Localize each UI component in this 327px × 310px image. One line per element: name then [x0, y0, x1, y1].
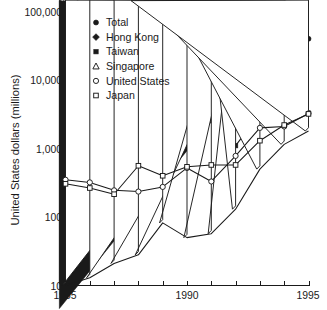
data-point-1989: [160, 173, 165, 178]
x-axis-tick-labels: 1985 1990 1995: [53, 290, 319, 301]
x-tick-label-1990: 1990: [175, 290, 198, 301]
data-point-1985: [63, 182, 68, 187]
legend-label: Japan: [106, 89, 135, 101]
data-point-1991: [209, 163, 214, 168]
data-point-1991: [209, 179, 214, 184]
series-singapore: [62, 0, 308, 285]
legend-label: Hong Kong: [106, 31, 159, 43]
y-axis-tick-labels: 100,000 10,000 1,000 100 10: [24, 7, 62, 292]
data-point-1988: [136, 189, 141, 194]
data-point-1992: [233, 163, 238, 168]
data-point-1986: [87, 180, 92, 185]
legend-label: Total: [106, 16, 128, 28]
legend-marker-filled-circle-icon: [94, 20, 99, 25]
data-point-1986: [88, 186, 93, 191]
data-point-1989: [160, 184, 165, 189]
y-tick-label-1000: 1,000: [36, 144, 62, 155]
series-layer: [59, 0, 311, 308]
chart-container: United States dollars (millions) 100,000…: [0, 0, 327, 310]
data-point-1993: [258, 138, 263, 143]
log-line-chart: United States dollars (millions) 100,000…: [0, 0, 327, 310]
y-tick-label-10000: 10,000: [30, 75, 62, 86]
data-point-1988: [136, 163, 141, 168]
legend-marker-open-circle-icon: [93, 78, 98, 83]
data-point-1987: [112, 192, 117, 197]
data-point-1992: [233, 153, 238, 158]
legend-marker-filled-square-icon: [94, 50, 98, 54]
legend-label: United States: [106, 75, 170, 87]
data-point-1993: [257, 125, 262, 130]
legend-label: Singapore: [106, 60, 154, 72]
legend-label: Taiwan: [106, 45, 139, 57]
data-point-1990: [185, 165, 190, 170]
y-tick-label-100000: 100,000: [24, 7, 62, 18]
x-tick-label-1995: 1995: [296, 290, 319, 301]
y-axis-title: United States dollars (millions): [9, 74, 21, 225]
data-point-1995: [306, 112, 311, 117]
x-axis-ticks: [67, 281, 310, 286]
legend-marker-open-square-icon: [94, 93, 99, 98]
data-point-1994: [282, 123, 287, 128]
